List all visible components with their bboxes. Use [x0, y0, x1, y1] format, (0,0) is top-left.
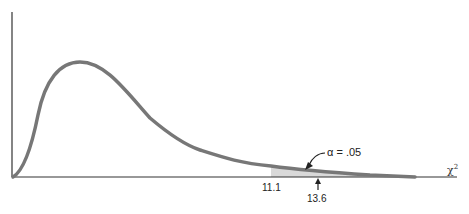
chi-superscript: 2	[454, 163, 458, 171]
density-curve	[13, 62, 415, 177]
chi-symbol: χ	[447, 164, 454, 177]
alpha-label: α = .05	[327, 146, 361, 158]
critical-value-label: 11.1	[262, 182, 281, 193]
observed-value-label: 13.6	[307, 193, 326, 204]
alpha-pointer	[309, 153, 325, 165]
chi-square-chart	[0, 0, 469, 214]
x-axis-label: χ2	[447, 163, 458, 177]
observed-arrowhead	[315, 178, 321, 184]
